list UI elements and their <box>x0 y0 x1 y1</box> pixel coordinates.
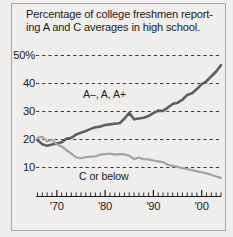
series-line-c-or-below <box>38 137 222 178</box>
series-line-a-averages <box>38 65 222 146</box>
y-tick-label-40: 40 <box>8 77 35 89</box>
series-group <box>38 65 222 178</box>
series-label-a-averages: A–, A, A+ <box>83 88 126 100</box>
x-tick-label-1990: '90 <box>137 200 169 212</box>
x-tick-label-1970: '70 <box>41 200 73 212</box>
y-tick-label-30: 30 <box>8 105 35 117</box>
x-tick-label-2000: '00 <box>186 200 218 212</box>
x-axis-group <box>36 190 221 197</box>
y-tick-label-50: 50% <box>8 49 35 61</box>
x-tick-label-1980: '80 <box>89 200 121 212</box>
series-label-c-or-below: C or below <box>79 170 129 182</box>
gridlines-group <box>36 56 221 168</box>
y-tick-label-20: 20 <box>8 133 35 145</box>
y-tick-label-10: 10 <box>8 161 35 173</box>
chart-figure: Percentage of college freshmen report- i… <box>0 0 233 237</box>
